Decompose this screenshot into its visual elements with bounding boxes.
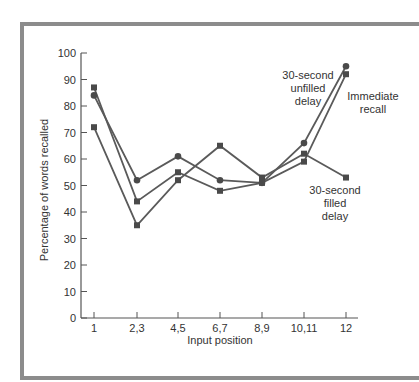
svg-text:Immediate: Immediate <box>347 90 398 102</box>
data-point-square <box>175 177 181 183</box>
x-tick-label: 8,9 <box>254 322 269 334</box>
annotation-immediate-recall: Immediate recall <box>347 90 398 115</box>
x-tick-label: 12 <box>340 322 352 334</box>
y-tick-label: 70 <box>64 127 76 139</box>
y-tick-label: 60 <box>64 153 76 165</box>
data-point-circle <box>343 63 350 70</box>
y-tick-label: 80 <box>64 100 76 112</box>
annotation-filled-delay: 30-second filled delay <box>309 184 360 222</box>
y-axis-title: Percentage of words recalled <box>38 119 50 261</box>
data-point-square <box>91 84 97 90</box>
series-line-30-second-filled-delay <box>94 127 346 225</box>
y-tick-label: 30 <box>64 233 76 245</box>
data-point-circle <box>175 153 182 160</box>
y-tick-label: 20 <box>64 259 76 271</box>
y-tick-label: 10 <box>64 286 76 298</box>
y-tick-label: 40 <box>64 206 76 218</box>
x-axis-title: Input position <box>187 334 252 346</box>
svg-text:delay: delay <box>322 210 349 222</box>
data-point-square <box>343 71 349 77</box>
svg-text:recall: recall <box>360 103 386 115</box>
data-point-circle <box>301 140 308 147</box>
data-point-circle <box>217 177 224 184</box>
svg-text:filled: filled <box>324 197 347 209</box>
x-tick-label: 2,3 <box>129 322 144 334</box>
data-point-square <box>91 124 97 130</box>
svg-text:30-second: 30-second <box>282 69 333 81</box>
x-tick-label: 10,11 <box>291 322 318 334</box>
data-point-square <box>343 175 349 181</box>
data-point-circle <box>91 92 98 99</box>
y-tick-label: 100 <box>58 47 76 59</box>
x-tick-label: 1 <box>91 322 97 334</box>
data-point-square <box>217 143 223 149</box>
svg-text:unfilled: unfilled <box>291 82 326 94</box>
data-point-square <box>217 188 223 194</box>
y-tick-label: 50 <box>64 180 76 192</box>
data-point-square <box>301 159 307 165</box>
svg-text:30-second: 30-second <box>309 184 360 196</box>
y-tick-label: 90 <box>64 74 76 86</box>
data-point-square <box>134 222 140 228</box>
data-point-square <box>259 180 265 186</box>
svg-text:delay: delay <box>295 95 322 107</box>
data-point-square <box>175 169 181 175</box>
data-point-square <box>134 198 140 204</box>
data-point-square <box>301 151 307 157</box>
x-tick-label: 6,7 <box>212 322 227 334</box>
y-tick-label: 0 <box>70 312 76 324</box>
data-point-square <box>259 175 265 181</box>
x-tick-label: 4,5 <box>170 322 185 334</box>
data-point-circle <box>134 177 141 184</box>
